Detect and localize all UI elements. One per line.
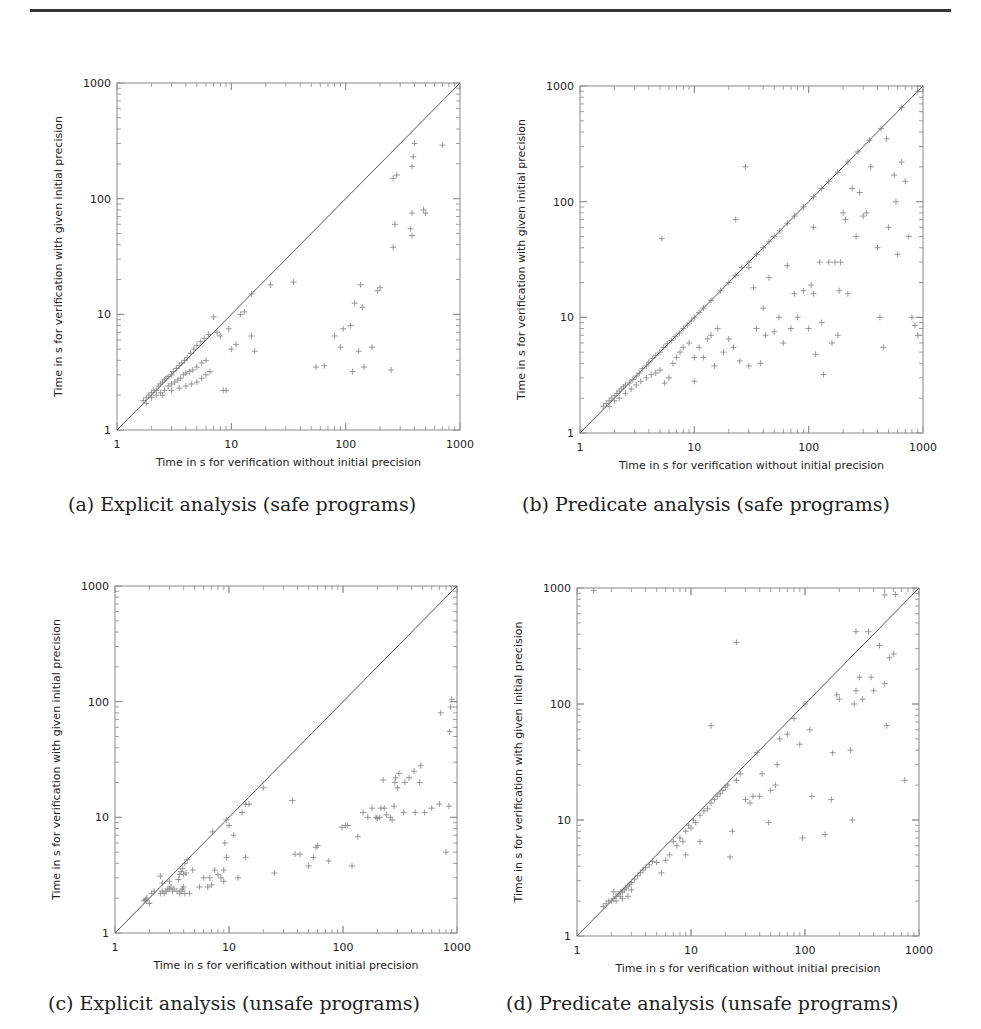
x-axis-label: Time in s for verification without initi…: [614, 962, 880, 975]
y-tick-label: 10: [557, 814, 571, 827]
x-tick-label: 1000: [905, 944, 933, 957]
y-axis-label: Time in s for verification with given in…: [512, 622, 525, 904]
x-tick-label: 1: [574, 944, 581, 957]
scatter-plot-d: 11101010010010001000Time in s for verifi…: [0, 0, 981, 1000]
x-tick-label: 100: [795, 944, 816, 957]
figure-panel-d: 11101010010010001000Time in s for verifi…: [0, 0, 981, 1000]
data-points: [591, 588, 908, 910]
y-tick-label: 100: [550, 698, 571, 711]
caption-d: (d) Predicate analysis (unsafe programs): [506, 992, 898, 1014]
y-tick-label: 1000: [543, 582, 571, 595]
x-tick-label: 10: [684, 944, 698, 957]
y-tick-label: 1: [564, 930, 571, 943]
